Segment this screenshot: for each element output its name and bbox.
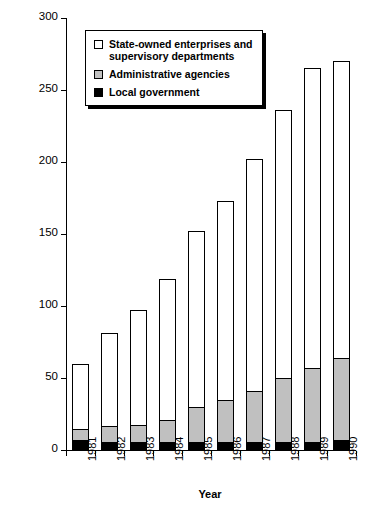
x-tick-mark [66,451,67,456]
bar-segment-local-government [305,442,320,449]
x-tick-mark [240,451,241,456]
y-tick-label: 150 [24,226,58,238]
bar-1985 [188,231,205,450]
bar-segment-local-government [218,442,233,449]
x-tick-mark [182,451,183,456]
legend-label-line1: State-owned enterprises and [109,38,253,50]
x-tick-mark [95,451,96,456]
bar-segment-local-government [247,442,262,449]
y-tick-label: 50 [24,370,58,382]
y-tick-mark [61,162,66,163]
bar-1986 [217,201,234,450]
bar-segment-administrative-agencies [131,425,146,442]
legend-label-administrative-agencies: Administrative agencies [109,68,230,80]
y-tick-label: 250 [24,82,58,94]
legend-label-state-owned-enterprises: State-owned enterprises and supervisory … [109,38,253,62]
bar-segment-local-government [73,440,88,449]
y-tick-mark [61,90,66,91]
legend-swatch-black-icon [94,88,103,97]
bar-1984 [159,279,176,450]
x-tick-mark [124,451,125,456]
bar-segment-administrative-agencies [247,391,262,441]
legend-swatch-gray-icon [94,70,103,79]
bar-segment-administrative-agencies [160,420,175,442]
x-axis-title: Year [60,488,360,500]
bar-segment-administrative-agencies [276,378,291,441]
y-tick-mark [61,234,66,235]
legend-label-local-government: Local government [109,86,199,98]
y-tick-label: 100 [24,298,58,310]
bar-1990 [333,61,350,450]
y-tick-label: 200 [24,154,58,166]
y-axis-title-wrapper: Extrabudgetary Funds (billion yuan) [2,10,24,450]
bar-segment-administrative-agencies [334,358,349,440]
y-tick-label: 300 [24,10,58,22]
x-tick-mark [298,451,299,456]
y-tick-label: 0 [24,442,58,454]
bar-1983 [130,310,147,450]
legend-item-local-government: Local government [94,86,254,98]
legend-item-administrative-agencies: Administrative agencies [94,68,254,80]
legend-item-state-owned-enterprises: State-owned enterprises and supervisory … [94,38,254,62]
bar-segment-administrative-agencies [189,407,204,442]
y-axis-line [66,18,67,451]
x-tick-mark [269,451,270,456]
x-tick-mark [153,451,154,456]
bar-segment-local-government [160,442,175,449]
bar-segment-administrative-agencies [218,400,233,442]
legend-swatch-white-icon [94,40,103,49]
y-axis-title: Extrabudgetary Funds (billion yuan) [2,0,24,54]
bar-segment-administrative-agencies [102,426,117,442]
bar-segment-administrative-agencies [73,429,88,441]
bar-1988 [275,110,292,450]
y-tick-mark [61,306,66,307]
bar-segment-local-government [189,442,204,449]
extrabudgetary-funds-chart: Extrabudgetary Funds (billion yuan) 0501… [0,0,369,513]
bar-segment-administrative-agencies [305,368,320,441]
y-tick-mark [61,378,66,379]
bar-1989 [304,68,321,450]
legend: State-owned enterprises and supervisory … [85,30,263,106]
bar-1987 [246,159,263,450]
bar-segment-local-government [334,440,349,449]
x-tick-mark [327,451,328,456]
legend-label-line2: supervisory departments [109,50,234,62]
bar-segment-local-government [102,442,117,449]
bar-1981 [72,364,89,450]
bar-1982 [101,333,118,450]
y-tick-mark [61,18,66,19]
bar-segment-local-government [276,442,291,449]
bar-segment-local-government [131,442,146,449]
x-tick-mark [211,451,212,456]
